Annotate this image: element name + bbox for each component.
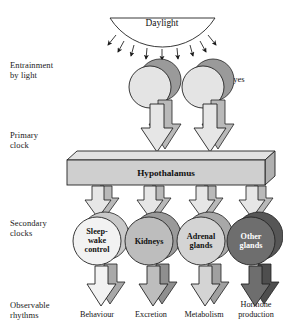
light-ray-icon xyxy=(190,45,193,56)
hypothalamus-label: Hypothalamus xyxy=(137,168,195,178)
secondary-clock-other-glands: Other glands xyxy=(227,212,283,265)
sleep-wake-label-line3: control xyxy=(85,245,111,254)
daylight-label: Daylight xyxy=(146,18,179,28)
arrow-to-excretion xyxy=(139,264,177,306)
adrenal-label-line2: glands xyxy=(190,241,213,250)
secondary-clock-adrenal-glands: Adrenal glands xyxy=(177,212,233,265)
light-ray-icon xyxy=(146,48,147,59)
kidneys-label: Kidneys xyxy=(135,237,164,246)
secondary-clock-kidneys: Kidneys xyxy=(125,212,181,265)
other-glands-label-line2: glands xyxy=(240,241,263,250)
light-ray-icon xyxy=(108,35,116,45)
light-ray-icon xyxy=(208,35,216,45)
sleep-wake-label-line1: Sleep- xyxy=(86,227,108,236)
light-ray-icon xyxy=(118,41,124,52)
eye-right xyxy=(182,59,234,108)
eye-left xyxy=(129,59,181,108)
arrow-to-behaviour xyxy=(87,264,125,306)
secondary-clock-sleep-wake-control: Sleep- wake control xyxy=(73,212,129,265)
light-ray-icon xyxy=(200,41,206,52)
daylight-arc: Daylight xyxy=(110,18,215,47)
circadian-diagram: Entrainment by light Primary clock Secon… xyxy=(0,0,283,331)
other-glands-label-line1: Other xyxy=(241,232,262,241)
sleep-wake-label-line2: wake xyxy=(88,236,107,245)
light-ray-icon xyxy=(177,48,178,59)
diagram-artwork: Daylight xyxy=(0,0,283,331)
light-ray-icon xyxy=(131,45,134,56)
hypothalamus-box: Hypothalamus xyxy=(67,151,275,185)
adrenal-label-line1: Adrenal xyxy=(187,232,216,241)
arrow-to-metabolism xyxy=(191,264,229,306)
arrow-to-hormone-production xyxy=(241,264,279,306)
